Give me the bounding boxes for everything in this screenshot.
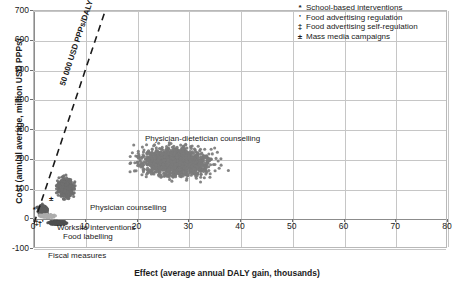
y-tick-mark bbox=[30, 99, 33, 100]
x-tick-mark bbox=[447, 219, 448, 222]
y-tick-mark bbox=[30, 70, 33, 71]
x-tick-label: 60 bbox=[331, 222, 357, 231]
legend-symbol-icon: * bbox=[296, 3, 304, 13]
x-tick-label: 40 bbox=[227, 222, 253, 231]
intervention-marker: ± bbox=[49, 195, 53, 203]
x-tick-mark bbox=[85, 219, 86, 222]
y-tick-mark bbox=[30, 159, 33, 160]
legend-symbol-icon: ± bbox=[296, 32, 304, 42]
legend-item-label: Food advertising regulation bbox=[306, 13, 403, 23]
cluster-label: Fiscal measures bbox=[48, 251, 106, 260]
y-tick-mark bbox=[30, 189, 33, 190]
y-tick-mark bbox=[30, 248, 33, 249]
legend-item-label: Food advertising self-regulation bbox=[306, 22, 418, 32]
legend-item-label: School-based interventions bbox=[306, 3, 403, 13]
scatter-chart: Physician-dietetician counsellingPhysici… bbox=[0, 0, 454, 285]
y-tick-mark bbox=[30, 129, 33, 130]
x-tick-label: 20 bbox=[124, 222, 150, 231]
x-tick-mark bbox=[188, 219, 189, 222]
x-tick-mark bbox=[344, 219, 345, 222]
x-axis-title: Effect (average annual DALY gain, thousa… bbox=[0, 268, 454, 278]
x-tick-mark bbox=[292, 219, 293, 222]
x-tick-mark bbox=[137, 219, 138, 222]
legend: *School-based interventions'Food adverti… bbox=[296, 3, 418, 41]
y-axis-title: Cost (annual average, million USD PPPs) bbox=[14, 6, 24, 236]
legend-item: 'Food advertising regulation bbox=[296, 13, 418, 23]
x-tick-mark bbox=[33, 219, 34, 222]
legend-item: ±Mass media campaigns bbox=[296, 32, 418, 42]
legend-item-label: Mass media campaigns bbox=[306, 32, 390, 42]
y-tick-mark bbox=[30, 10, 33, 11]
x-tick-label: 30 bbox=[175, 222, 201, 231]
x-tick-label: 80 bbox=[434, 222, 454, 231]
intervention-marker: * bbox=[33, 206, 36, 214]
cluster-label: Physician-dietetician counselling bbox=[145, 134, 260, 143]
cluster-physician-dietetician-counselling bbox=[128, 141, 229, 183]
plot-area: Physician-dietetician counsellingPhysici… bbox=[33, 10, 447, 248]
legend-item: *School-based interventions bbox=[296, 3, 418, 13]
legend-symbol-icon: ‡ bbox=[296, 22, 304, 32]
y-tick-label: -100 bbox=[1, 244, 29, 253]
x-tick-label: 10 bbox=[72, 222, 98, 231]
cluster-label: Food labelling bbox=[63, 232, 113, 241]
x-tick-mark bbox=[395, 219, 396, 222]
y-tick-mark bbox=[30, 40, 33, 41]
x-tick-label: 50 bbox=[279, 222, 305, 231]
gridline-horizontal bbox=[34, 249, 446, 250]
gridline-vertical bbox=[448, 11, 449, 247]
x-tick-mark bbox=[240, 219, 241, 222]
legend-symbol-icon: ' bbox=[296, 13, 304, 23]
cluster-physician-counselling bbox=[55, 173, 77, 200]
legend-item: ‡Food advertising self-regulation bbox=[296, 22, 418, 32]
cluster-label: Physician counselling bbox=[90, 203, 167, 212]
x-tick-label: 70 bbox=[382, 222, 408, 231]
